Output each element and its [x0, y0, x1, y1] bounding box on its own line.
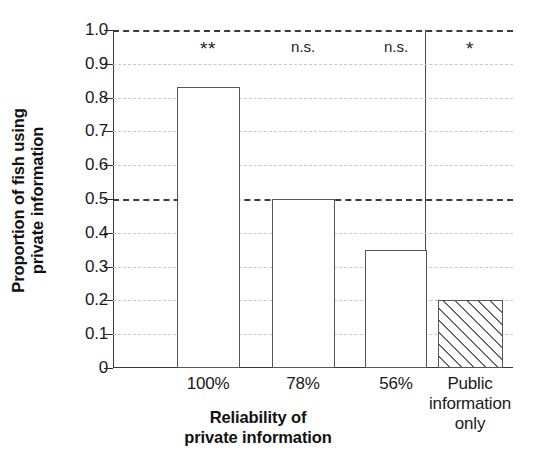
gridline: [113, 30, 513, 32]
x-axis-tick-label-line: 100%: [187, 374, 230, 394]
y-axis-tick: [104, 199, 113, 200]
gridline: [113, 64, 513, 65]
y-axis-tick: [104, 30, 113, 31]
y-axis-tick: [104, 131, 113, 132]
significance-annotation: n.s.: [384, 38, 408, 55]
y-axis-tick-labels: 00.10.20.30.40.50.60.70.80.91.0: [58, 0, 108, 474]
gridline: [113, 98, 513, 99]
y-axis-tick-label: 1.0: [60, 20, 108, 40]
x-axis-title-line-2: private information: [113, 428, 403, 448]
x-axis-tick-label-line: Public: [429, 374, 511, 394]
y-axis-tick-label: 0.1: [60, 324, 108, 344]
y-axis-tick: [104, 300, 113, 301]
y-axis-tick: [104, 233, 113, 234]
y-axis-tick-label: 0.7: [60, 121, 108, 141]
y-axis-title: Proportion of fish using private informa…: [0, 0, 56, 400]
gridline: [113, 131, 513, 132]
bar-78: [272, 199, 335, 368]
y-axis-tick-label: 0.6: [60, 155, 108, 175]
y-axis-tick-label: 0.8: [60, 88, 108, 108]
bar-public-information-only: [438, 300, 503, 368]
y-axis-tick: [104, 334, 113, 335]
y-axis-tick: [104, 64, 113, 65]
y-axis-tick-label: 0.4: [60, 223, 108, 243]
y-axis-tick-label: 0.2: [60, 290, 108, 310]
bar-100: [177, 87, 240, 368]
y-axis-tick: [104, 98, 113, 99]
x-axis-tick-label: 78%: [286, 374, 319, 394]
bar-56: [365, 250, 427, 368]
significance-annotation: *: [466, 38, 474, 60]
y-axis-title-line-1: Proportion of fish using: [9, 108, 28, 293]
y-axis-tick-label: 0.3: [60, 257, 108, 277]
y-axis-tick-label: 0.5: [60, 189, 108, 209]
x-axis-tick-label-line: only: [429, 414, 511, 434]
significance-annotation: **: [200, 38, 216, 60]
x-axis-tick-label: 56%: [379, 374, 412, 394]
x-axis-tick-label: Publicinformationonly: [429, 374, 511, 434]
x-axis-tick-label-line: 78%: [286, 374, 319, 394]
y-axis-tick: [104, 267, 113, 268]
y-axis-tick: [104, 368, 113, 369]
y-axis-title-line-2: private information: [28, 108, 47, 293]
y-axis-tick: [104, 165, 113, 166]
plot-area: **n.s.n.s.*: [113, 30, 513, 368]
x-axis-title-line-1: Reliability of: [113, 408, 403, 428]
gridline: [113, 165, 513, 166]
x-axis-tick-label-line: 56%: [379, 374, 412, 394]
x-axis-title: Reliability of private information: [113, 408, 403, 448]
y-axis-tick-label: 0: [60, 358, 108, 378]
chart-figure: Proportion of fish using private informa…: [0, 0, 546, 474]
x-axis-tick-label-line: information: [429, 394, 511, 414]
y-axis-tick-label: 0.9: [60, 54, 108, 74]
significance-annotation: n.s.: [291, 38, 315, 55]
x-axis-tick-label: 100%: [187, 374, 230, 394]
